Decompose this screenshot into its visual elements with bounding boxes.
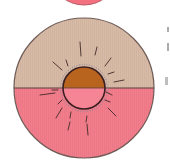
cutoff-label-fragments	[165, 27, 169, 85]
wound-cross-section-diagram	[0, 0, 170, 162]
top-partial-circle	[52, 0, 116, 5]
